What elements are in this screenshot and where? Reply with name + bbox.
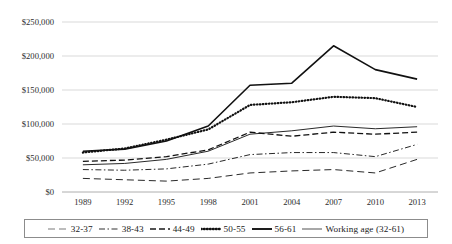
- legend-item-44-49[interactable]: 44-49: [150, 224, 195, 234]
- y-axis-tick-label: $250,000: [22, 17, 54, 27]
- legend-item-working-age-32-61-[interactable]: Working age (32-61): [302, 224, 404, 234]
- series-line-50-55: [83, 97, 417, 153]
- legend-label: 32-37: [71, 224, 93, 234]
- y-axis-tick-label: $0: [45, 187, 54, 197]
- legend-swatch-icon: [302, 225, 322, 233]
- x-axis-tick-label: 1998: [200, 197, 217, 207]
- y-axis-tick-label: $100,000: [22, 119, 54, 129]
- legend-item-32-37[interactable]: 32-37: [48, 224, 93, 234]
- legend-swatch-icon: [150, 225, 170, 233]
- x-axis-tick-label: 1992: [116, 197, 133, 207]
- y-axis-tick-label: $150,000: [22, 85, 54, 95]
- line-chart: $250,000$200,000$150,000$100,000$50,000$…: [0, 0, 452, 244]
- legend-label: 50-55: [224, 224, 246, 234]
- x-axis-tick-label: 1995: [158, 197, 175, 207]
- chart-legend: 32-3738-4344-4950-5556-61Working age (32…: [24, 219, 428, 238]
- x-axis-tick-label: 2007: [325, 197, 343, 207]
- legend-label: 56-61: [275, 224, 297, 234]
- legend-label: 38-43: [122, 224, 144, 234]
- legend-swatch-icon: [252, 225, 272, 233]
- legend-swatch-icon: [201, 225, 221, 233]
- x-axis-tick-label: 2013: [409, 197, 426, 207]
- y-axis-tick-label: $50,000: [26, 153, 54, 163]
- legend-swatch-icon: [99, 225, 119, 233]
- legend-item-50-55[interactable]: 50-55: [201, 224, 246, 234]
- legend-item-38-43[interactable]: 38-43: [99, 224, 144, 234]
- legend-swatch-icon: [48, 225, 68, 233]
- x-axis-tick-label: 1989: [74, 197, 91, 207]
- y-axis-tick-label: $200,000: [22, 51, 54, 61]
- legend-label: Working age (32-61): [325, 224, 404, 234]
- x-axis-tick-label: 2010: [367, 197, 384, 207]
- legend-item-56-61[interactable]: 56-61: [252, 224, 297, 234]
- x-axis-tick-label: 2001: [241, 197, 258, 207]
- x-axis-tick-label: 2004: [283, 197, 301, 207]
- legend-label: 44-49: [173, 224, 195, 234]
- chart-plot-area: $250,000$200,000$150,000$100,000$50,000$…: [0, 0, 452, 215]
